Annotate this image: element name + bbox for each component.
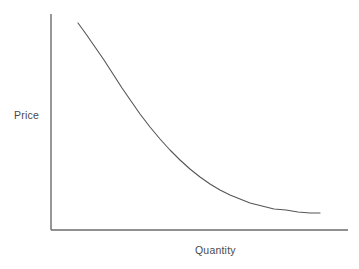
chart-canvas	[0, 0, 359, 269]
y-axis-label: Price	[14, 110, 39, 121]
x-axis-label: Quantity	[195, 245, 236, 256]
demand-curve-figure: Price Quantity	[0, 0, 359, 269]
demand-curve-line	[78, 23, 320, 213]
